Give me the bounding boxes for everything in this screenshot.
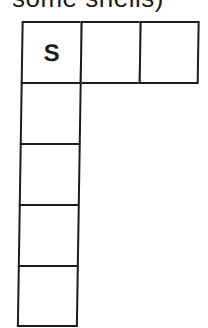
grid-cell[interactable] — [139, 21, 200, 84]
grid-cell[interactable] — [17, 265, 79, 327]
grid-cell[interactable] — [80, 21, 142, 84]
grid-cell[interactable] — [18, 204, 80, 267]
grid-cell[interactable] — [19, 143, 81, 206]
letter-grid: S — [0, 0, 208, 328]
grid-cell[interactable] — [20, 82, 82, 145]
grid-cell-start[interactable]: S — [21, 21, 83, 84]
